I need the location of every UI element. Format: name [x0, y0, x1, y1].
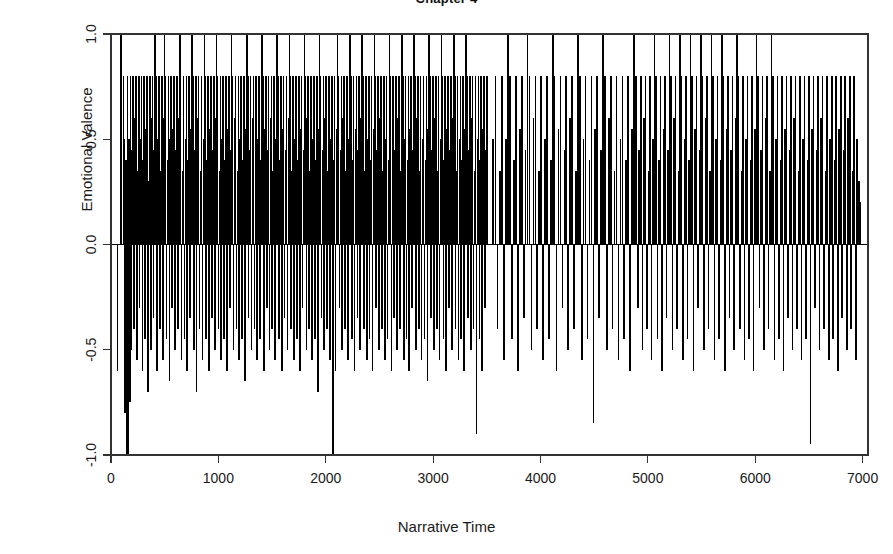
y-axis-tick-label: -0.5 [83, 337, 99, 361]
y-axis-tick-label: 1.0 [83, 24, 99, 44]
x-axis-tick-label: 0 [107, 470, 115, 486]
x-axis-tick-label: 3000 [418, 470, 449, 486]
y-axis-tick-label: 0.5 [83, 129, 99, 149]
y-axis-tick-label: -1.0 [83, 443, 99, 467]
x-axis-tick-label: 7000 [847, 470, 878, 486]
x-axis-tick-label: 2000 [310, 470, 341, 486]
chart-canvas: Chapter 4 Emotional Valence Narrative Ti… [0, 0, 893, 554]
x-axis-tick-label: 1000 [203, 470, 234, 486]
y-axis-tick-label: 0.0 [83, 235, 99, 255]
x-axis-tick-label: 4000 [525, 470, 556, 486]
x-axis-tick-label: 5000 [632, 470, 663, 486]
plot-area: 010002000300040005000600070001.00.50.0-0… [0, 0, 893, 554]
x-axis-tick-label: 6000 [740, 470, 771, 486]
